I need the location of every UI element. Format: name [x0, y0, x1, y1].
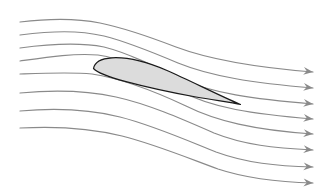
airfoil-streamline-figure [0, 0, 325, 190]
flow-field-diagram [0, 0, 325, 190]
